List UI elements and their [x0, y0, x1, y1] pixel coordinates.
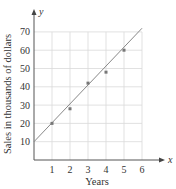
y-axis-title: Sales in thousands of dollars — [2, 34, 13, 154]
data-point — [69, 107, 72, 110]
x-tick-labels: 123456 — [50, 164, 145, 175]
y-tick-labels: 10203040506070 — [20, 26, 30, 147]
axes: y x — [32, 6, 174, 165]
x-axis-arrow-icon — [159, 158, 165, 163]
y-tick-label: 70 — [20, 26, 30, 37]
data-point — [51, 122, 54, 125]
x-axis-title: Years — [85, 176, 108, 187]
scatter-chart: y x 123456 10203040506070 Years Sales in… — [0, 0, 176, 189]
data-point — [87, 82, 90, 85]
data-point — [123, 49, 126, 52]
x-axis-variable: x — [167, 154, 173, 165]
y-tick-label: 10 — [20, 136, 30, 147]
x-tick-label: 5 — [122, 164, 127, 175]
x-tick-label: 3 — [86, 164, 91, 175]
y-axis-arrow-icon — [32, 9, 37, 15]
y-tick-label: 50 — [20, 63, 30, 74]
y-tick-label: 40 — [20, 81, 30, 92]
x-tick-label: 1 — [50, 164, 55, 175]
y-axis-variable: y — [38, 6, 44, 17]
grid-lines — [34, 32, 142, 160]
x-tick-label: 4 — [104, 164, 109, 175]
x-tick-label: 6 — [140, 164, 145, 175]
data-point — [105, 71, 108, 74]
y-tick-label: 30 — [20, 100, 30, 111]
x-tick-label: 2 — [68, 164, 73, 175]
y-tick-label: 60 — [20, 45, 30, 56]
y-tick-label: 20 — [20, 118, 30, 129]
